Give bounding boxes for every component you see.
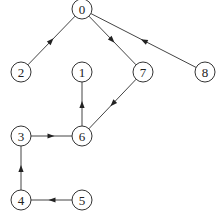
edge-7-to-6 (89, 79, 136, 129)
edges-layer (18, 14, 196, 203)
edge-5-to-4 (31, 197, 72, 202)
graph-diagram: 012345678 (0, 0, 216, 220)
node-label: 0 (79, 2, 86, 17)
edge-8-to-0 (91, 14, 196, 68)
nodes-layer: 012345678 (11, 0, 215, 210)
node-4: 4 (11, 190, 31, 210)
node-label: 2 (18, 65, 25, 80)
node-label: 3 (18, 129, 25, 144)
edge-6-to-1 (79, 82, 84, 126)
node-2: 2 (11, 62, 31, 82)
edge-2-to-0 (28, 16, 75, 65)
node-label: 1 (79, 65, 86, 80)
node-1: 1 (72, 62, 92, 82)
node-8: 8 (195, 62, 215, 82)
node-3: 3 (11, 126, 31, 146)
arrowhead-icon (48, 133, 55, 138)
node-5: 5 (72, 190, 92, 210)
node-label: 8 (202, 65, 209, 80)
arrowhead-icon (49, 197, 56, 202)
edge-0-to-7 (89, 16, 136, 65)
arrowhead-icon (18, 165, 23, 172)
node-6: 6 (72, 126, 92, 146)
edge-4-to-3 (18, 146, 23, 190)
node-label: 5 (79, 193, 86, 208)
node-label: 4 (18, 193, 25, 208)
node-label: 6 (79, 129, 86, 144)
node-label: 7 (140, 65, 147, 80)
edge-3-to-6 (31, 133, 72, 138)
node-7: 7 (133, 62, 153, 82)
arrowhead-icon (79, 101, 84, 108)
node-0: 0 (72, 0, 92, 19)
arrowhead-icon (141, 39, 148, 45)
